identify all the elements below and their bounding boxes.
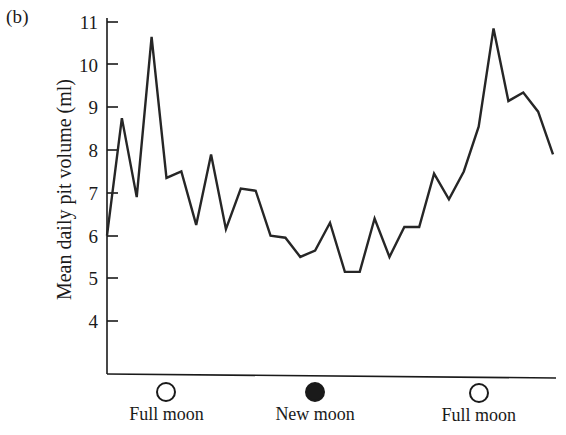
figure-panel-b: (b) Mean daily pit volume (ml) 11 10 9 8… [0,0,566,435]
y-tick-label-8: 8 [68,140,98,162]
full-moon-label-right: Full moon [414,405,544,426]
y-tick-label-10: 10 [68,55,98,77]
y-tick-label-5: 5 [68,268,98,290]
y-tick-label-7: 7 [68,183,98,205]
new-moon-icon-center [305,382,325,402]
y-tick-label-9: 9 [68,97,98,119]
y-tick-label-6: 6 [68,226,98,248]
panel-label: (b) [6,6,29,28]
full-moon-label-left: Full moon [101,404,231,425]
x-axis-spine [107,374,556,378]
y-tick-label-11: 11 [68,12,98,34]
y-tick-label-4: 4 [68,311,98,333]
full-moon-icon-right [469,383,489,403]
data-series-line [107,28,553,271]
new-moon-label-center: New moon [250,404,380,425]
y-axis-ticks [107,22,118,321]
